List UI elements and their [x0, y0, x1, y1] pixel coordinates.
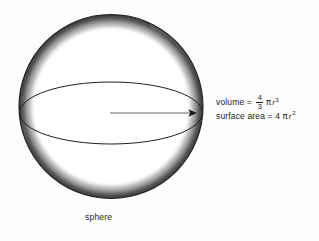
fraction-numerator: 4 [258, 94, 262, 102]
four-thirds-fraction: 4 3 [256, 94, 263, 111]
volume-exponent: 3 [276, 94, 280, 108]
surface-area-label: surface area [216, 110, 265, 124]
formula-block: volume = 4 3 π r 3 surface area = 4 π r … [216, 96, 296, 123]
volume-label: volume [216, 96, 244, 110]
surface-area-coefficient: 4 [275, 110, 280, 124]
surface-area-equals-sign: = [268, 110, 273, 124]
pi-symbol-surface: π [283, 110, 288, 124]
volume-equals-sign: = [247, 96, 252, 110]
sphere-body [18, 15, 206, 203]
surface-area-exponent: 2 [292, 107, 296, 121]
figure-caption: sphere [85, 212, 112, 222]
pi-symbol-volume: π [266, 96, 271, 110]
fraction-denominator: 3 [258, 103, 262, 111]
surface-area-formula-row: surface area = 4 π r 2 [216, 110, 296, 124]
volume-formula-row: volume = 4 3 π r 3 [216, 96, 296, 110]
